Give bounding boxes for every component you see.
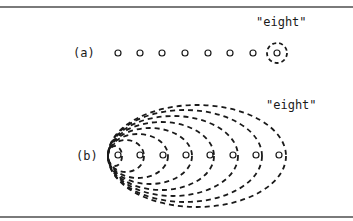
unit-circle bbox=[115, 152, 121, 158]
panel-b-circles bbox=[115, 152, 282, 158]
diagram-figure: "eight" (a) "eight" (b) bbox=[0, 0, 353, 221]
unit-circle bbox=[183, 152, 189, 158]
unit-circle bbox=[230, 152, 236, 158]
unit-circle bbox=[159, 50, 165, 56]
unit-circle bbox=[160, 152, 166, 158]
unit-circle bbox=[182, 50, 188, 56]
highlight-dashed-circle bbox=[267, 43, 287, 63]
panel-a-circles bbox=[115, 50, 280, 56]
nested-ellipse bbox=[108, 116, 238, 196]
unit-circle bbox=[250, 50, 256, 56]
unit-circle bbox=[276, 152, 282, 158]
unit-circle bbox=[137, 152, 143, 158]
unit-circle bbox=[227, 50, 233, 56]
unit-circle bbox=[137, 50, 143, 56]
unit-circle bbox=[253, 152, 259, 158]
unit-circle bbox=[115, 50, 121, 56]
unit-circle bbox=[274, 50, 280, 56]
unit-circle bbox=[207, 152, 213, 158]
unit-circle bbox=[205, 50, 211, 56]
diagram-graphics bbox=[0, 0, 353, 221]
